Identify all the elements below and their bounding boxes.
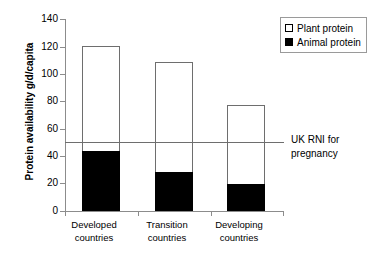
category-line-1: Developing: [197, 218, 281, 231]
category-line-2: countries: [52, 231, 136, 244]
y-tick-label: 0: [0, 206, 58, 216]
y-tick-label: 100: [0, 69, 58, 79]
plant-protein-swatch-icon: [285, 24, 293, 32]
x-category-label-developed: Developed countries: [52, 218, 136, 244]
uk-rni-reference-line: [65, 142, 284, 143]
uk-rni-label-line-2: pregnancy: [291, 147, 381, 161]
x-tick-mark: [211, 211, 212, 216]
chart-legend: Plant protein Animal protein: [280, 17, 367, 53]
y-tick-label: 20: [0, 178, 58, 188]
protein-availability-chart: Protein availability g/d/capita 0 20 40 …: [0, 0, 382, 253]
category-line-1: Developed: [52, 218, 136, 231]
bar-animal-protein-transition[interactable]: [155, 172, 193, 211]
x-category-label-developing: Developing countries: [197, 218, 281, 244]
bar-animal-protein-developed[interactable]: [82, 151, 120, 211]
x-tick-mark: [65, 211, 66, 216]
x-axis-line: [65, 211, 284, 212]
animal-protein-swatch-icon: [285, 38, 293, 46]
category-line-2: countries: [197, 231, 281, 244]
legend-label-plant-protein: Plant protein: [297, 23, 353, 34]
y-tick-label: 80: [0, 96, 58, 106]
y-tick-label: 140: [0, 14, 58, 24]
uk-rni-reference-label: UK RNI for pregnancy: [291, 133, 381, 161]
plot-area: [65, 19, 283, 211]
x-tick-mark: [138, 211, 139, 216]
legend-item-animal-protein[interactable]: Animal protein: [285, 35, 361, 49]
y-tick-label: 120: [0, 42, 58, 52]
bar-animal-protein-developing[interactable]: [227, 184, 265, 211]
uk-rni-label-line-1: UK RNI for: [291, 133, 381, 147]
legend-item-plant-protein[interactable]: Plant protein: [285, 21, 361, 35]
y-tick-label: 40: [0, 151, 58, 161]
legend-label-animal-protein: Animal protein: [297, 37, 361, 48]
y-tick-label: 60: [0, 124, 58, 134]
x-tick-mark: [283, 211, 284, 216]
